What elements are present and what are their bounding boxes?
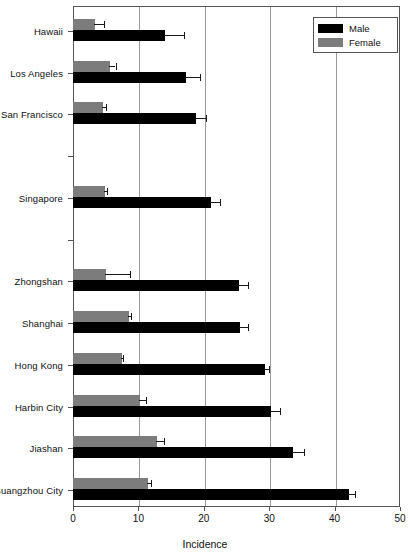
legend-item-male: Male: [318, 21, 397, 35]
x-tick-label-10: 10: [133, 513, 144, 524]
x-tick-20: [204, 507, 205, 511]
error-bar-male-9: [270, 411, 280, 412]
error-bar-male-4: [210, 202, 220, 203]
error-cap-male-7: [248, 324, 249, 331]
error-cap-male-2: [206, 115, 207, 122]
bar-male-9: [73, 406, 271, 417]
legend-swatch-female-icon: [318, 38, 343, 47]
bar-male-11: [73, 489, 349, 500]
x-axis-title: Incidence: [0, 538, 410, 550]
bar-male-0: [73, 30, 165, 41]
error-bar-female-10: [156, 441, 164, 442]
x-tick-40: [335, 507, 336, 511]
error-cap-male-1: [200, 74, 201, 81]
bar-female-9: [73, 395, 140, 406]
error-cap-male-6: [248, 282, 249, 289]
bar-male-7: [73, 322, 240, 333]
error-cap-female-10: [164, 438, 165, 445]
category-label-zhongshan: Zhongshan: [15, 276, 63, 287]
legend-label-male: Male: [349, 23, 370, 34]
legend-swatch-male-icon: [318, 24, 343, 33]
error-cap-female-4: [107, 188, 108, 195]
error-cap-female-9: [146, 397, 147, 404]
bar-male-10: [73, 447, 293, 458]
bar-female-8: [73, 353, 122, 364]
category-label-san-francisco: San Francisco: [1, 109, 63, 120]
error-bar-male-2: [195, 118, 206, 119]
bar-female-10: [73, 436, 157, 447]
error-cap-female-0: [104, 21, 105, 28]
error-cap-female-11: [151, 480, 152, 487]
category-label-los-angeles: Los Angeles: [10, 67, 63, 78]
bar-female-2: [73, 102, 103, 113]
error-bar-female-6: [105, 274, 130, 275]
bar-female-6: [73, 269, 106, 280]
error-bar-male-10: [292, 452, 304, 453]
error-cap-male-9: [280, 408, 281, 415]
error-bar-female-0: [94, 24, 104, 25]
y-axis: HawaiiLos AngelesSan FranciscoSingaporeZ…: [0, 0, 73, 555]
error-cap-male-0: [184, 32, 185, 39]
bar-male-6: [73, 280, 239, 291]
bar-male-8: [73, 364, 265, 375]
legend-item-female: Female: [318, 35, 397, 49]
category-label-shanghai: Shanghai: [22, 318, 63, 329]
x-tick-label-0: 0: [70, 513, 76, 524]
chart-figure: HawaiiLos AngelesSan FranciscoSingaporeZ…: [0, 0, 410, 555]
error-bar-male-0: [164, 35, 185, 36]
x-tick-50: [400, 507, 401, 511]
error-cap-female-2: [106, 104, 107, 111]
error-cap-male-11: [355, 491, 356, 498]
bar-female-0: [73, 19, 95, 30]
x-tick-label-30: 30: [264, 513, 275, 524]
x-tick-label-50: 50: [394, 513, 405, 524]
category-label-hawaii: Hawaii: [34, 25, 63, 36]
error-bar-male-1: [185, 77, 200, 78]
bar-male-2: [73, 113, 196, 124]
error-cap-female-7: [131, 313, 132, 320]
bar-male-4: [73, 197, 211, 208]
error-bar-female-1: [109, 66, 116, 67]
x-tick-label-20: 20: [198, 513, 209, 524]
bar-male-1: [73, 72, 186, 83]
error-bar-male-6: [238, 285, 248, 286]
error-cap-male-8: [269, 366, 270, 373]
x-tick-30: [269, 507, 270, 511]
error-cap-male-4: [220, 199, 221, 206]
error-cap-female-6: [130, 271, 131, 278]
bar-female-4: [73, 186, 105, 197]
category-label-hong-kong: Hong Kong: [15, 359, 63, 370]
bars-layer: [73, 6, 400, 507]
x-axis: Incidence 01020304050: [0, 507, 410, 555]
x-tick-0: [73, 507, 74, 511]
category-label-guangzhou-city: Guangzhou City: [0, 485, 63, 496]
bar-female-11: [73, 478, 148, 489]
x-tick-label-40: 40: [329, 513, 340, 524]
chart-legend: Male Female: [313, 17, 398, 53]
x-tick-10: [138, 507, 139, 511]
legend-label-female: Female: [349, 37, 381, 48]
category-label-harbin-city: Harbin City: [15, 401, 63, 412]
category-label-jiashan: Jiashan: [30, 443, 63, 454]
error-cap-male-10: [304, 449, 305, 456]
bar-female-1: [73, 61, 110, 72]
error-bar-male-11: [348, 494, 355, 495]
error-bar-male-7: [239, 327, 248, 328]
error-cap-female-1: [116, 63, 117, 70]
category-label-singapore: Singapore: [19, 192, 63, 203]
bar-female-7: [73, 311, 129, 322]
error-cap-female-8: [123, 355, 124, 362]
